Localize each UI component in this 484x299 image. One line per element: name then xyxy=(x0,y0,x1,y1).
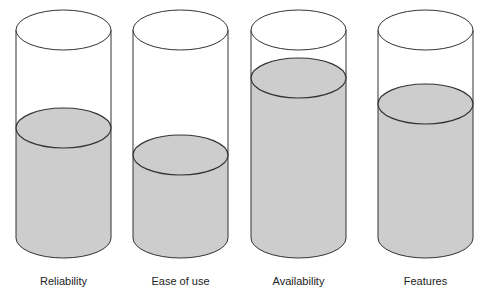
cylinder-availability xyxy=(251,10,346,258)
top-rim xyxy=(133,10,228,50)
fill-surface xyxy=(16,108,111,148)
top-rim xyxy=(16,10,111,50)
cylinder-reliability xyxy=(16,10,111,258)
label-ease-of-use: Ease of use xyxy=(121,275,241,287)
fill-body xyxy=(251,78,346,258)
cylinder-chart xyxy=(0,0,484,299)
fill-body xyxy=(378,104,473,258)
label-availability: Availability xyxy=(239,275,359,287)
top-rim xyxy=(251,10,346,50)
cylinder-ease-of-use xyxy=(133,10,228,258)
label-features: Features xyxy=(366,275,484,287)
top-rim xyxy=(378,10,473,50)
fill-surface xyxy=(133,135,228,175)
fill-surface xyxy=(251,58,346,98)
label-reliability: Reliability xyxy=(4,275,124,287)
fill-surface xyxy=(378,84,473,124)
cylinder-features xyxy=(378,10,473,258)
